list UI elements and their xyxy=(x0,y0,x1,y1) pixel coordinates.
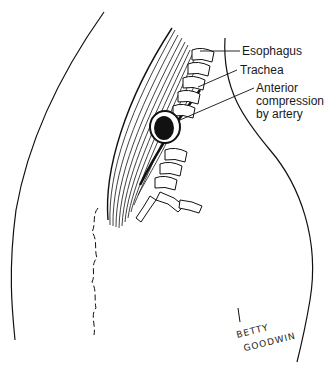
label-trachea: Trachea xyxy=(240,64,284,77)
left-body-outline xyxy=(11,12,104,340)
bronchi xyxy=(136,192,202,222)
signature-flourish xyxy=(238,308,240,322)
label-esophagus: Esophagus xyxy=(242,45,302,58)
spine-outline xyxy=(92,208,98,335)
artery xyxy=(150,111,180,143)
label-by-artery: by artery xyxy=(256,108,303,121)
